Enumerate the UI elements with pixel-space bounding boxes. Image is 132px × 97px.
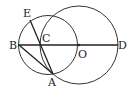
segment-ea bbox=[30, 20, 53, 74]
label-c: C bbox=[42, 32, 50, 45]
label-e: E bbox=[23, 7, 31, 20]
label-b: B bbox=[9, 39, 17, 52]
label-o: O bbox=[78, 48, 87, 61]
segment-ba bbox=[19, 45, 53, 74]
label-a: A bbox=[47, 76, 57, 89]
label-d: D bbox=[118, 39, 127, 52]
point-o bbox=[78, 44, 81, 47]
geometry-diagram: E B C O D A bbox=[0, 0, 132, 97]
diagram-svg: E B C O D A bbox=[0, 0, 132, 97]
